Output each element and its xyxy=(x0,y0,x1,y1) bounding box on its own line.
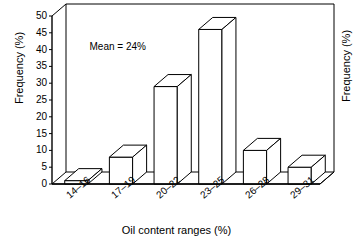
x-tick-0: 14–16 xyxy=(64,174,92,200)
x-tick-1: 17–19 xyxy=(109,174,137,200)
mean-annotation: Mean = 24% xyxy=(90,41,146,52)
x-tick-2: 20–22 xyxy=(154,174,182,200)
x-tick-4: 26–28 xyxy=(243,174,271,200)
x-axis-tick-labels: 14–1617–1920–2223–2526–2829–31 xyxy=(0,0,353,244)
x-tick-3: 23–25 xyxy=(198,174,226,200)
x-tick-5: 29–31 xyxy=(288,174,316,200)
oil-content-frequency-chart: Frequency (%) Frequency (%) Oil content … xyxy=(0,0,353,244)
